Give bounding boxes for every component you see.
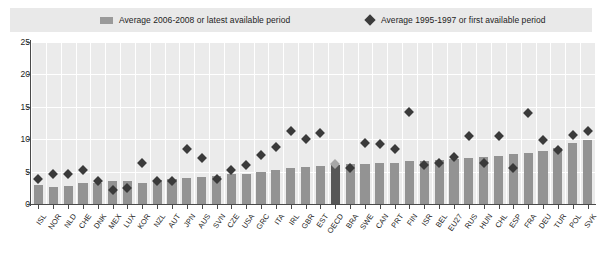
x-axis-label-fra: FRA — [522, 212, 538, 230]
bar-cze — [227, 174, 236, 204]
gridline-vertical — [120, 42, 121, 204]
gridline-vertical — [209, 42, 210, 204]
gridline-vertical — [239, 42, 240, 204]
x-tick-mark — [380, 205, 381, 209]
x-axis-label-swe: SWE — [358, 212, 375, 231]
gridline-vertical — [268, 42, 269, 204]
bar-chl — [494, 156, 503, 204]
gridline-vertical — [31, 42, 32, 204]
gridline-vertical — [135, 42, 136, 204]
x-tick-mark — [335, 205, 336, 209]
legend-label-bars: Average 2006-2008 or latest available pe… — [119, 15, 290, 25]
gridline-vertical — [46, 42, 47, 204]
x-tick-mark — [350, 205, 351, 209]
x-axis-line — [30, 204, 596, 205]
gridline-vertical — [328, 42, 329, 204]
bar-pol — [568, 143, 577, 204]
gridline-vertical — [90, 42, 91, 204]
x-axis-label-bra: BRA — [344, 212, 360, 230]
x-tick-mark — [68, 205, 69, 209]
bar-eu27 — [449, 159, 458, 204]
legend-entry-bars: Average 2006-2008 or latest available pe… — [100, 13, 290, 27]
diamond-can — [375, 139, 385, 149]
diamond-ita — [271, 142, 281, 152]
x-tick-mark — [365, 205, 366, 209]
bar-tur — [553, 148, 562, 204]
bar-irl — [286, 168, 295, 204]
bar-usa — [242, 174, 251, 204]
x-axis-label-esp: ESP — [508, 212, 524, 230]
bar-gbr — [301, 167, 310, 204]
x-axis-label-dnk: DNK — [92, 212, 109, 230]
bar-nor — [49, 187, 58, 204]
y-tick-mark — [27, 204, 31, 205]
x-tick-mark — [217, 205, 218, 209]
x-axis-label-isr: ISR — [420, 212, 435, 228]
bar-jpn — [182, 178, 191, 204]
x-axis-label-kor: KOR — [136, 212, 153, 231]
gridline-vertical — [461, 42, 462, 204]
bar-rus — [464, 158, 473, 204]
chart-figure: Average 2006-2008 or latest available pe… — [0, 0, 602, 259]
legend-entry-diamonds: Average 1995-1997 or first available per… — [365, 13, 546, 27]
x-axis-label-can: CAN — [374, 212, 391, 230]
x-axis-label-hun: HUN — [477, 212, 494, 231]
x-axis-label-rus: RUS — [463, 212, 480, 230]
bar-grc — [256, 172, 265, 204]
x-axis-label-nld: NLD — [62, 212, 78, 230]
x-tick-mark — [231, 205, 232, 209]
x-tick-mark — [276, 205, 277, 209]
gridline-vertical — [447, 42, 448, 204]
bar-oecd — [331, 165, 340, 204]
y-axis-ticks: 0510152025 — [0, 0, 30, 259]
gridline-vertical — [254, 42, 255, 204]
x-axis-label-nzl: NZL — [152, 212, 168, 229]
gridline-vertical — [432, 42, 433, 204]
x-tick-mark — [157, 205, 158, 209]
x-tick-mark — [543, 205, 544, 209]
y-tick-mark — [27, 74, 31, 75]
x-axis-label-grc: GRC — [254, 212, 271, 231]
gridline-vertical — [61, 42, 62, 204]
gridline-vertical — [283, 42, 284, 204]
bar-aus — [197, 177, 206, 204]
x-tick-mark — [98, 205, 99, 209]
x-tick-mark — [320, 205, 321, 209]
x-axis-label-pol: POL — [567, 212, 583, 230]
y-tick-mark — [27, 107, 31, 108]
x-tick-mark — [588, 205, 589, 209]
x-tick-mark — [127, 205, 128, 209]
x-tick-mark — [38, 205, 39, 209]
x-axis-label-aus: AUS — [196, 212, 212, 230]
gridline-vertical — [506, 42, 507, 204]
x-axis-label-aut: AUT — [166, 212, 182, 230]
gridline-vertical — [387, 42, 388, 204]
x-tick-mark — [469, 205, 470, 209]
x-axis-label-usa: USA — [240, 212, 256, 230]
bar-nld — [64, 186, 73, 204]
x-axis-label-nor: NOR — [47, 212, 64, 231]
gridline-vertical — [521, 42, 522, 204]
diamond-jpn — [182, 144, 192, 154]
gridline-vertical — [165, 42, 166, 204]
x-tick-mark — [291, 205, 292, 209]
x-tick-mark — [409, 205, 410, 209]
bar-svk — [583, 140, 592, 204]
gridline-vertical — [550, 42, 551, 204]
diamond-grc — [256, 150, 266, 160]
bar-ita — [271, 170, 280, 204]
gridline-vertical — [150, 42, 151, 204]
x-axis-label-chl: CHL — [493, 212, 509, 230]
gridline-vertical — [358, 42, 359, 204]
bar-che — [78, 183, 87, 204]
diamond-svk — [583, 126, 593, 136]
x-tick-mark — [395, 205, 396, 209]
diamond-swatch-icon — [364, 14, 375, 25]
x-axis-label-gbr: GBR — [299, 212, 316, 231]
bar-fin — [405, 161, 414, 204]
x-tick-mark — [306, 205, 307, 209]
x-axis-label-cze: CZE — [226, 212, 242, 230]
gridline-vertical — [476, 42, 477, 204]
x-tick-mark — [53, 205, 54, 209]
legend-label-diamonds: Average 1995-1997 or first available per… — [381, 15, 546, 25]
